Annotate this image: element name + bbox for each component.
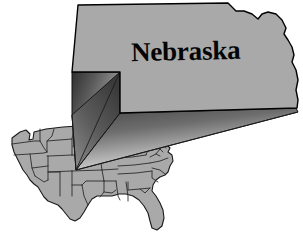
map-graphic — [0, 0, 303, 235]
state-name-label: Nebraska — [131, 35, 240, 67]
nebraska-locator-map: Nebraska — [0, 0, 303, 235]
